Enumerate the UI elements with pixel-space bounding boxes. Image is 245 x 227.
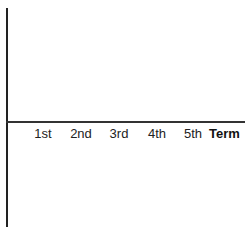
x-tick-label-4th: 4th (142, 126, 172, 141)
x-tick-label-2nd: 2nd (66, 126, 96, 141)
y-axis-line (6, 8, 8, 227)
x-axis-line (6, 121, 245, 123)
x-tick-label-3rd: 3rd (104, 126, 134, 141)
x-tick-label-1st: 1st (28, 126, 58, 141)
x-axis-title: Term (209, 126, 240, 141)
x-tick-label-5th: 5th (178, 126, 208, 141)
